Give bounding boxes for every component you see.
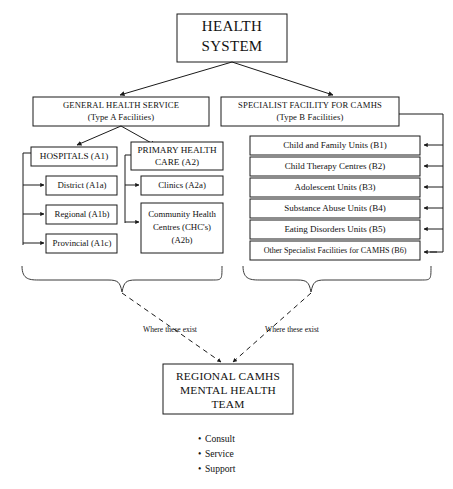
regional-team-label-line3: TEAM: [211, 398, 244, 410]
node-other-specialist-facilities: Other Specialist Facilities for CAMHS (B…: [250, 241, 420, 260]
node-eating-disorders-units: Eating Disorders Units (B5): [250, 220, 420, 239]
node-district: District (A1a): [46, 176, 117, 195]
node-clinics: Clinics (A2a): [141, 176, 223, 195]
node-adolescent-units: Adolescent Units (B3): [250, 178, 420, 197]
edge-label-left: Where these exist: [143, 325, 198, 334]
node-health-system: HEALTH SYSTEM: [177, 14, 287, 62]
function-label-support: Support: [205, 463, 236, 474]
chc-label-line1: Community Health: [148, 209, 216, 219]
b2-label: Child Therapy Centres (B2): [285, 161, 386, 171]
b6-label: Other Specialist Facilities for CAMHS (B…: [264, 246, 407, 255]
clinics-label: Clinics (A2a): [158, 180, 206, 190]
edge-ghs-to-hospitals: [77, 126, 121, 145]
function-label-service: Service: [205, 448, 234, 459]
team-functions-list: • Consult • Service • Support: [198, 433, 236, 474]
regional-team-label-line2: MENTAL HEALTH: [180, 384, 276, 396]
node-child-therapy-centres: Child Therapy Centres (B2): [250, 157, 420, 176]
edge-label-right: Where these exist: [265, 325, 320, 334]
diagram-canvas: HEALTH SYSTEM GENERAL HEALTH SERVICE (Ty…: [0, 0, 453, 489]
brace-type-a: [22, 266, 222, 292]
chc-label-line2: Centres (CHC's): [153, 222, 211, 232]
general-health-service-label-line1: GENERAL HEALTH SERVICE: [63, 100, 179, 110]
function-bullet-consult: •: [198, 433, 201, 444]
general-health-service-label-line2: (Type A Facilities): [88, 112, 155, 122]
node-regional-camhs-team: REGIONAL CAMHS MENTAL HEALTH TEAM: [163, 364, 293, 414]
provincial-label: Provincial (A1c): [53, 238, 112, 248]
node-child-family-units: Child and Family Units (B1): [250, 136, 420, 155]
node-specialist-facility-camhs: SPECIALIST FACILITY FOR CAMHS (Type B Fa…: [221, 97, 399, 126]
b5-label: Eating Disorders Units (B5): [284, 224, 385, 234]
node-hospitals: HOSPITALS (A1): [31, 147, 117, 166]
node-provincial: Provincial (A1c): [46, 234, 117, 253]
brace-type-b: [243, 266, 431, 292]
node-regional: Regional (A1b): [46, 205, 117, 224]
district-label: District (A1a): [57, 180, 106, 190]
b3-label: Adolescent Units (B3): [295, 182, 376, 192]
hospitals-label: HOSPITALS (A1): [40, 151, 108, 161]
bus-hospitals: [23, 153, 31, 245]
specialist-facility-label-line1: SPECIALIST FACILITY FOR CAMHS: [238, 100, 382, 110]
primary-health-care-label-line1: PRIMARY HEALTH: [137, 145, 217, 155]
function-bullet-service: •: [198, 448, 201, 459]
health-system-label-line1: HEALTH: [202, 18, 262, 34]
function-label-consult: Consult: [205, 433, 235, 444]
bus-primary-health-care: [125, 155, 131, 223]
function-bullet-support: •: [198, 463, 201, 474]
b4-label: Substance Abuse Units (B4): [284, 203, 386, 213]
node-community-health-centres: Community Health Centres (CHC's) (A2b): [141, 203, 223, 253]
node-primary-health-care: PRIMARY HEALTH CARE (A2): [131, 142, 223, 170]
health-system-diagram: HEALTH SYSTEM GENERAL HEALTH SERVICE (Ty…: [0, 0, 453, 489]
edge-root-to-general-health: [120, 62, 232, 95]
regional-team-label-line1: REGIONAL CAMHS: [176, 370, 280, 382]
edge-root-to-specialist-facility: [232, 62, 333, 95]
specialist-facility-label-line2: (Type B Facilities): [276, 112, 343, 122]
node-substance-abuse-units: Substance Abuse Units (B4): [250, 199, 420, 218]
b1-label: Child and Family Units (B1): [283, 140, 387, 150]
primary-health-care-label-line2: CARE (A2): [155, 157, 199, 167]
health-system-label-line2: SYSTEM: [202, 38, 263, 54]
node-general-health-service: GENERAL HEALTH SERVICE (Type A Facilitie…: [33, 97, 209, 126]
chc-label-line3: (A2b): [171, 235, 192, 245]
regional-label: Regional (A1b): [55, 209, 110, 219]
